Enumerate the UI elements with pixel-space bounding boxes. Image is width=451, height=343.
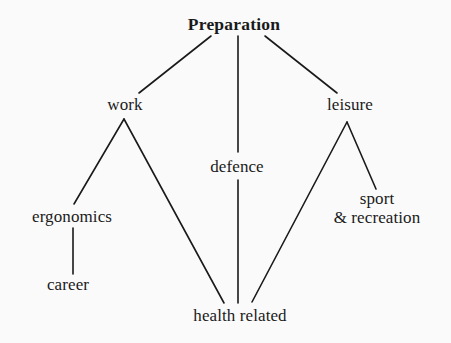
node-health-related: health related — [193, 306, 286, 325]
node-work: work — [107, 95, 142, 114]
edge-work-to-health-related — [124, 119, 224, 303]
node-leisure: leisure — [327, 95, 373, 114]
node-sport-recreation: sport& recreation — [334, 189, 421, 227]
node-sport-recreation-label-line2: & recreation — [334, 208, 421, 227]
edge-preparation-to-work — [139, 36, 211, 93]
node-preparation: Preparation — [188, 15, 280, 35]
node-ergonomics: ergonomics — [32, 207, 112, 226]
edge-preparation-to-leisure — [265, 36, 337, 93]
preparation-hierarchy-diagram: Preparationworkdefenceleisureergonomicsc… — [0, 0, 451, 343]
edge-leisure-to-sport-recreation — [347, 122, 376, 189]
node-defence: defence — [210, 157, 264, 176]
node-sport-recreation-label-line1: sport — [360, 189, 395, 208]
node-career: career — [47, 275, 89, 294]
edge-work-to-ergonomics — [74, 119, 124, 204]
